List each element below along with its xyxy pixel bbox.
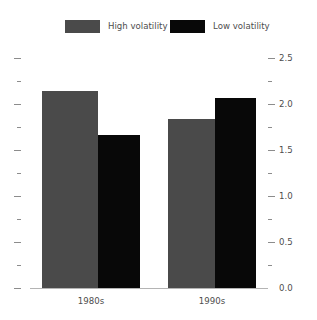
y-tick-label: 0.0 xyxy=(279,283,293,293)
left-tick-major xyxy=(14,242,21,243)
left-tick-minor xyxy=(17,81,21,82)
right-tick-major xyxy=(268,58,275,59)
left-tick-minor xyxy=(17,127,21,128)
right-tick-minor xyxy=(268,127,272,128)
right-tick-major xyxy=(268,196,275,197)
y-tick-label: 1.0 xyxy=(279,191,293,201)
bar-1990s-high-volatility xyxy=(168,119,215,288)
bar-1980s-low-volatility xyxy=(98,135,140,288)
left-tick-major xyxy=(14,58,21,59)
left-tick-major xyxy=(14,104,21,105)
y-tick-label: 1.5 xyxy=(279,145,293,155)
right-tick-major xyxy=(268,104,275,105)
x-axis-right-stub xyxy=(256,288,268,289)
x-axis-left-stub xyxy=(30,288,42,289)
bar-1990s-low-volatility xyxy=(215,98,256,288)
x-axis-baseline xyxy=(42,288,256,289)
left-tick-minor xyxy=(17,219,21,220)
category-label-1980s: 1980s xyxy=(78,296,104,306)
plot-area: 0.00.51.01.52.02.5 1980s 1990s xyxy=(0,0,317,320)
right-tick-minor xyxy=(268,265,272,266)
bar-chart: High volatility Low volatility 0.00.51.0… xyxy=(0,0,317,320)
y-tick-label: 0.5 xyxy=(279,237,293,247)
left-tick-major xyxy=(14,288,21,289)
left-tick-major xyxy=(14,150,21,151)
right-tick-major xyxy=(268,242,275,243)
y-tick-label: 2.0 xyxy=(279,99,293,109)
right-tick-minor xyxy=(268,219,272,220)
bar-1980s-high-volatility xyxy=(42,91,98,288)
left-tick-minor xyxy=(17,173,21,174)
y-tick-label: 2.5 xyxy=(279,53,293,63)
right-tick-minor xyxy=(268,81,272,82)
right-tick-minor xyxy=(268,173,272,174)
category-label-1990s: 1990s xyxy=(199,296,225,306)
left-tick-minor xyxy=(17,265,21,266)
left-tick-major xyxy=(14,196,21,197)
right-tick-major xyxy=(268,150,275,151)
